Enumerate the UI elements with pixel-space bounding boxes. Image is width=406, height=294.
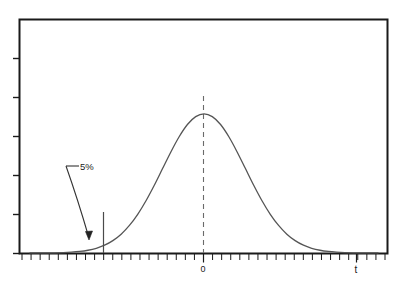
x-axis-origin-label: 0 xyxy=(200,264,205,274)
callout-leader-curve xyxy=(66,166,89,238)
callout-arrowhead xyxy=(86,231,93,240)
plot-canvas xyxy=(0,0,406,294)
tail-area-label: 5% xyxy=(80,161,94,172)
tail-area-callout xyxy=(66,166,93,240)
x-axis-name-label: t xyxy=(355,264,358,275)
t-distribution-figure: 0 t 5% xyxy=(0,0,406,294)
